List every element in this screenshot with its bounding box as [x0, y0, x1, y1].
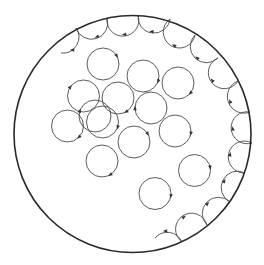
cyclotron-orbit — [87, 106, 119, 138]
direction-arrow-icon — [133, 106, 137, 110]
direction-arrow-icon — [115, 125, 120, 130]
cyclotron-orbit — [102, 82, 134, 114]
skipping-orbits — [61, 15, 252, 242]
skipping-orbit-start-arc — [61, 28, 79, 53]
skipping-orbit-arc — [107, 15, 139, 36]
cyclotron-orbit — [135, 92, 167, 124]
bulk-cyclotron-orbits — [52, 48, 213, 210]
cyclotron-orbit — [159, 115, 191, 147]
cyclotron-orbit — [127, 60, 159, 92]
cyclotron-orbit — [118, 126, 150, 158]
direction-arrow-icon — [78, 108, 83, 113]
skipping-orbit-arc — [76, 18, 108, 39]
cyclotron-orbit — [139, 178, 171, 210]
cyclotron-orbit — [86, 145, 118, 177]
skipping-orbit-arc — [202, 197, 230, 225]
sample-boundary — [14, 16, 251, 253]
cyclotron-orbit — [87, 48, 119, 80]
direction-arrow-icon — [156, 79, 161, 84]
cyclotron-orbit — [179, 155, 211, 187]
cyclotron-orbit — [68, 80, 100, 112]
skipping-orbit-arc — [231, 112, 252, 144]
skipping-orbit-arc — [227, 81, 250, 113]
cyclotron-orbit-diagram — [0, 0, 264, 265]
